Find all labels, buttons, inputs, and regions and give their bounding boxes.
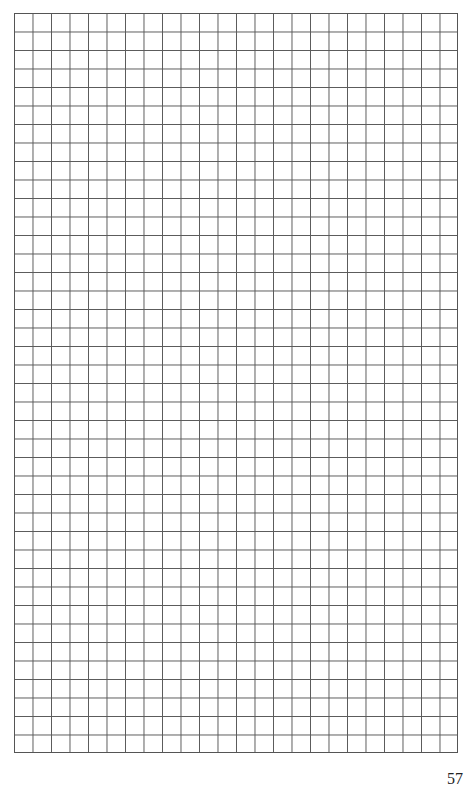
page-number: 57: [447, 771, 463, 787]
graph-paper-grid: [14, 13, 458, 753]
